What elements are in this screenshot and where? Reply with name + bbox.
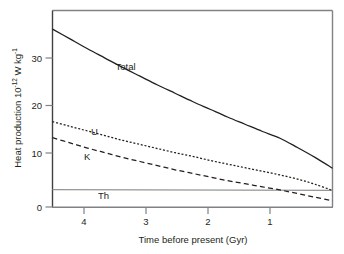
series-label-u: U bbox=[91, 126, 98, 137]
y-tick-label-20: 20 bbox=[31, 100, 42, 111]
x-axis-ticks bbox=[84, 208, 270, 215]
series-label-th: Th bbox=[98, 190, 109, 201]
y-axis-title-mid: W kg bbox=[12, 54, 23, 78]
x-axis-title: Time before present (Gyr) bbox=[139, 234, 248, 245]
y-axis-title-main: Heat production 10 bbox=[12, 87, 23, 167]
y-tick-label-10: 10 bbox=[31, 148, 42, 159]
x-tick-label-4: 4 bbox=[81, 216, 86, 227]
series-line-th bbox=[53, 190, 333, 191]
series-label-k: K bbox=[84, 151, 91, 162]
x-tick-label-2: 2 bbox=[205, 216, 210, 227]
y-axis-ticks bbox=[46, 58, 53, 207]
series-label-total: Total bbox=[116, 61, 136, 72]
y-axis-title-exponent-1: -12 bbox=[11, 78, 18, 88]
x-tick-label-1: 1 bbox=[267, 216, 272, 227]
figure-container: 30 20 10 0 4 3 2 1 Time before present (… bbox=[0, 0, 344, 254]
y-axis-title: Heat production 10-12 W kg-1 bbox=[11, 48, 23, 168]
svg-text:Heat production 10-12 W kg-1: Heat production 10-12 W kg-1 bbox=[11, 48, 23, 168]
heat-production-chart: 30 20 10 0 4 3 2 1 Time before present (… bbox=[0, 0, 344, 254]
x-tick-label-3: 3 bbox=[143, 216, 148, 227]
y-tick-label-30: 30 bbox=[31, 53, 42, 64]
y-tick-label-0: 0 bbox=[37, 202, 42, 213]
y-axis-title-exponent-2: -1 bbox=[11, 48, 18, 54]
